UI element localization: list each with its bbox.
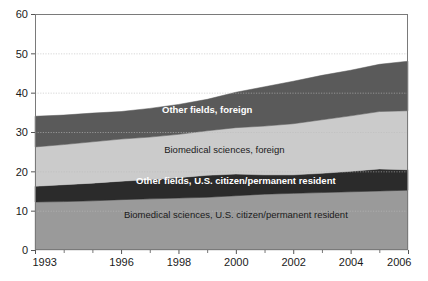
series-label-1: Other fields, U.S. citizen/permanent res… bbox=[136, 175, 336, 186]
y-tick-label-10: 10 bbox=[16, 205, 28, 217]
x-tick-label-2006: 2006 bbox=[387, 256, 411, 268]
y-tick-label-30: 30 bbox=[16, 126, 28, 138]
x-tick-label-1996: 1996 bbox=[109, 256, 133, 268]
chart-canvas: 0102030405060 19931996199820002002200420… bbox=[0, 0, 428, 281]
x-tick-label-1993: 1993 bbox=[33, 256, 57, 268]
y-tick-label-60: 60 bbox=[16, 8, 28, 20]
x-tick-label-2002: 2002 bbox=[281, 256, 305, 268]
x-tick-label-1998: 1998 bbox=[167, 256, 191, 268]
y-tick-label-50: 50 bbox=[16, 48, 28, 60]
x-tick-label-2000: 2000 bbox=[224, 256, 248, 268]
series-label-2: Biomedical sciences, foreign bbox=[164, 144, 284, 155]
y-tick-label-20: 20 bbox=[16, 166, 28, 178]
series-label-3: Other fields, foreign bbox=[162, 104, 252, 115]
y-tick-label-40: 40 bbox=[16, 87, 28, 99]
y-tick-label-0: 0 bbox=[22, 244, 28, 256]
series-label-0: Biomedical sciences, U.S. citizen/perman… bbox=[124, 209, 348, 220]
x-tick-label-2004: 2004 bbox=[339, 256, 363, 268]
stacked-area-chart: 0102030405060 19931996199820002002200420… bbox=[0, 0, 428, 281]
